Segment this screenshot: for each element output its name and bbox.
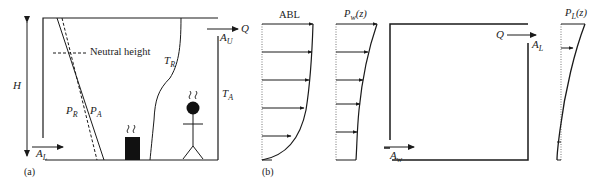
panel-a-label: (a) bbox=[24, 167, 35, 177]
building-outline bbox=[384, 24, 528, 160]
abl-profile bbox=[262, 24, 313, 160]
leeward-pressure-profile bbox=[557, 24, 585, 160]
panel-b-label: (b) bbox=[262, 167, 274, 177]
leeward-opening-label: AL bbox=[532, 39, 543, 50]
ambient-pressure-label: PA bbox=[90, 105, 102, 116]
windward-pressure-profile bbox=[336, 24, 377, 160]
room-pressure-label: PR bbox=[66, 105, 78, 116]
windward-opening-label: Aw bbox=[390, 150, 402, 161]
heat-plume-icon bbox=[127, 125, 135, 133]
ambient-pressure-line bbox=[57, 18, 104, 160]
height-label: H bbox=[13, 80, 21, 91]
room-pressure-line bbox=[62, 18, 97, 160]
person-icon bbox=[183, 91, 203, 159]
neutral-height-label: Neutral height bbox=[90, 47, 150, 58]
flow-rate-label: Q bbox=[241, 23, 249, 34]
abl-title: ABL bbox=[279, 10, 300, 21]
leeward-flow-label: Q bbox=[496, 29, 504, 40]
room-left-wall bbox=[43, 18, 218, 138]
upper-opening-label: AU bbox=[220, 32, 233, 43]
room-temperature-curve bbox=[150, 18, 181, 160]
ambient-temperature-label: TA bbox=[222, 88, 233, 99]
panel-a bbox=[27, 18, 238, 160]
lower-opening-label: AL bbox=[36, 148, 47, 159]
diagram-canvas bbox=[0, 0, 602, 184]
heat-source-icon bbox=[125, 137, 140, 160]
windward-pressure-title: Pw(z) bbox=[344, 9, 367, 20]
leeward-pressure-title: PL(z) bbox=[565, 8, 587, 19]
room-temperature-label: TR bbox=[164, 55, 175, 66]
